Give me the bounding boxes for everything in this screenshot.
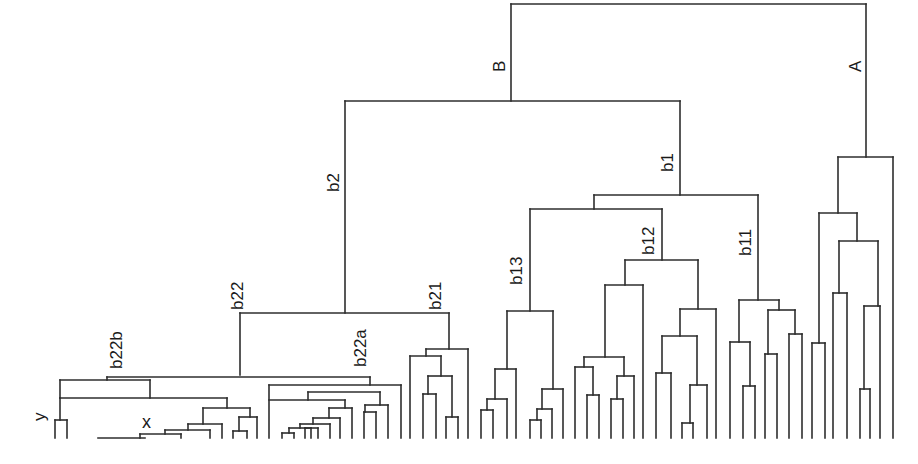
point-label-x: x [142, 413, 151, 431]
clade-label-b22a: b22a [352, 329, 369, 367]
point-label-y: y [31, 413, 48, 422]
dendrogram-branches [55, 4, 893, 438]
clade-label-b13: b13 [508, 257, 525, 285]
clade-label-b22b: b22b [108, 331, 125, 369]
dendrogram-canvas [0, 0, 918, 464]
clade-label-b2: b2 [325, 173, 342, 192]
clade-label-B: B [491, 61, 508, 72]
clade-label-A: A [847, 61, 864, 72]
clade-label-b21: b21 [427, 282, 444, 310]
clade-label-b1: b1 [659, 153, 676, 172]
clade-label-b12: b12 [640, 227, 657, 255]
clade-label-b11: b11 [737, 229, 754, 256]
clade-label-b22: b22 [229, 282, 246, 310]
